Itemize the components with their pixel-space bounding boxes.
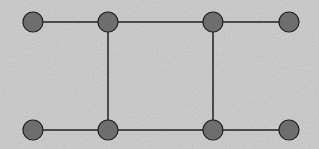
- graph-diagram: [0, 0, 319, 149]
- node-n7: [203, 120, 223, 140]
- node-n5: [23, 120, 43, 140]
- node-n1: [23, 12, 43, 32]
- node-n8: [279, 120, 299, 140]
- node-n6: [98, 120, 118, 140]
- node-n2: [98, 12, 118, 32]
- graph-svg: [0, 0, 319, 149]
- node-n3: [203, 12, 223, 32]
- node-n4: [279, 12, 299, 32]
